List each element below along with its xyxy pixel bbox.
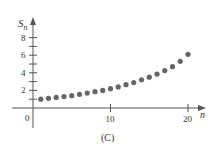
data-point: [108, 86, 113, 91]
y-tick-label: 8: [21, 33, 26, 43]
data-point: [162, 68, 167, 73]
data-point: [123, 82, 128, 87]
data-point: [178, 59, 183, 64]
axes: 10202468: [12, 17, 206, 128]
data-point: [100, 88, 105, 93]
y-tick-label: 2: [21, 85, 26, 95]
x-tick-label: 10: [106, 114, 116, 124]
data-point: [46, 96, 51, 101]
data-points: [38, 52, 190, 102]
y-tick-label: 6: [21, 50, 26, 60]
y-axis-arrow-icon: [30, 17, 36, 25]
data-point: [54, 95, 59, 100]
x-axis-label: n: [200, 109, 205, 120]
data-point: [69, 93, 74, 98]
data-point: [116, 84, 121, 89]
data-point: [85, 90, 90, 95]
data-point: [147, 75, 152, 80]
chart: 10202468 Sn n 0 (C): [0, 0, 213, 151]
data-point: [154, 72, 159, 77]
caption: (C): [101, 132, 114, 144]
origin-label: 0: [25, 113, 30, 123]
data-point: [170, 64, 175, 69]
x-tick-label: 20: [183, 114, 193, 124]
data-point: [38, 97, 43, 102]
data-point: [185, 52, 190, 57]
data-point: [139, 77, 144, 82]
y-axis-label: Sn: [18, 17, 28, 32]
data-point: [77, 92, 82, 97]
data-point: [61, 94, 66, 99]
data-point: [92, 89, 97, 94]
y-tick-label: 4: [21, 68, 26, 78]
data-point: [131, 80, 136, 85]
